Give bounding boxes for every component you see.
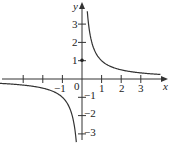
curve-group <box>0 11 160 142</box>
point-marker <box>80 59 84 63</box>
y-tick-label-1: 1 <box>72 55 78 66</box>
curve-branch-positive <box>87 11 160 74</box>
y-tick-label-3: 3 <box>72 19 78 30</box>
y-tick-label-neg2: −2 <box>84 108 96 119</box>
x-tick-label-3: 3 <box>138 83 144 94</box>
y-tick-label-neg3: −3 <box>84 127 96 138</box>
y-axis <box>79 2 85 140</box>
y-axis-arrow-icon <box>79 2 85 9</box>
y-axis-label: y <box>73 1 78 12</box>
plot-area <box>0 0 172 144</box>
x-tick-label-neg1: −1 <box>54 83 66 94</box>
origin-label: 0 <box>74 81 80 92</box>
x-tick-label-1: 1 <box>99 83 105 94</box>
y-tick-label-neg1: −1 <box>84 90 96 101</box>
y-tick-label-2: 2 <box>72 37 78 48</box>
x-axis-label: x <box>163 81 168 92</box>
x-tick-label-2: 2 <box>119 83 125 94</box>
